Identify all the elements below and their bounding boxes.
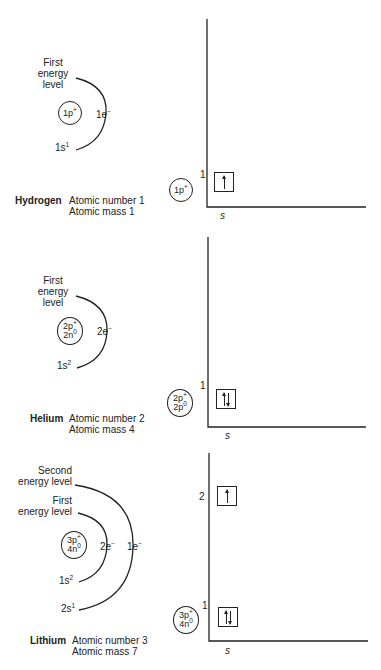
hydrogen-orbital-notation: 1s1 bbox=[55, 142, 69, 153]
hydrogen-bohr-nucleus: 1p+ bbox=[58, 101, 82, 125]
lithium-diagram-nucleus: 3p+ 4n0 bbox=[173, 606, 199, 634]
lithium-1s-orbital-box bbox=[218, 607, 238, 627]
spin-down-arrow-icon bbox=[228, 393, 229, 406]
lithium-2s-orbital-notation: 2s1 bbox=[61, 603, 75, 614]
helium-1s-orbital-box bbox=[216, 389, 236, 409]
helium-diagram-nucleus: 2p+ 2p0 bbox=[167, 389, 193, 417]
spin-down-arrow-icon bbox=[230, 611, 231, 624]
hydrogen-diagram-nucleus: 1p+ bbox=[169, 178, 193, 202]
lithium-first-energy-level-label: First energy level bbox=[2, 495, 72, 517]
lithium-second-energy-level-label: Second energy level bbox=[2, 465, 72, 487]
hydrogen-1s-orbital-box bbox=[214, 172, 234, 192]
helium-level-1-label: 1 bbox=[200, 380, 206, 391]
helium-bohr-nucleus: 2p+ 2n0 bbox=[57, 317, 83, 345]
helium-orbital-notation: 1s2 bbox=[57, 360, 71, 371]
helium-s-axis-label: s bbox=[225, 430, 230, 441]
lithium-atomic-number: Atomic number 3 bbox=[72, 635, 148, 646]
lithium-first-level-electron-count: 2e− bbox=[100, 541, 115, 552]
hydrogen-energy-level-label: First energy level bbox=[30, 57, 76, 90]
spin-up-arrow-icon bbox=[224, 393, 225, 406]
hydrogen-s-axis-label: s bbox=[220, 210, 225, 221]
lithium-level-2-label: 2 bbox=[199, 491, 205, 502]
helium-atomic-number: Atomic number 2 bbox=[69, 413, 145, 424]
lithium-2s-orbital-box bbox=[217, 486, 237, 506]
hydrogen-name: Hydrogen bbox=[15, 195, 62, 206]
hydrogen-electron-count: 1e− bbox=[96, 109, 111, 120]
helium-name: Helium bbox=[30, 413, 63, 424]
helium-electron-count: 2e− bbox=[97, 326, 112, 337]
helium-energy-level-label: First energy level bbox=[30, 275, 76, 308]
lithium-s-axis-label: s bbox=[225, 645, 230, 656]
spin-up-arrow-icon bbox=[224, 176, 225, 189]
lithium-level-1-label: 1 bbox=[202, 600, 208, 611]
lithium-second-level-electron-count: 1e− bbox=[127, 541, 142, 552]
lithium-name: Lithium bbox=[30, 635, 66, 646]
lithium-1s-orbital-notation: 1s2 bbox=[59, 575, 73, 586]
lithium-atomic-mass: Atomic mass 7 bbox=[72, 646, 138, 657]
hydrogen-level-1-label: 1 bbox=[200, 169, 206, 180]
hydrogen-atomic-number: Atomic number 1 bbox=[69, 195, 145, 206]
spin-up-arrow-icon bbox=[226, 611, 227, 624]
hydrogen-atomic-mass: Atomic mass 1 bbox=[69, 206, 135, 217]
lithium-bohr-nucleus: 3p+ 4n0 bbox=[61, 531, 87, 559]
spin-up-arrow-icon bbox=[227, 490, 228, 503]
helium-atomic-mass: Atomic mass 4 bbox=[69, 424, 135, 435]
